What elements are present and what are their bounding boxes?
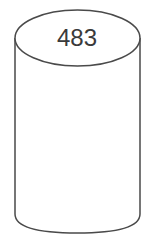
cylinder-body [15, 38, 140, 233]
cylinder-label: 483 [14, 20, 140, 56]
